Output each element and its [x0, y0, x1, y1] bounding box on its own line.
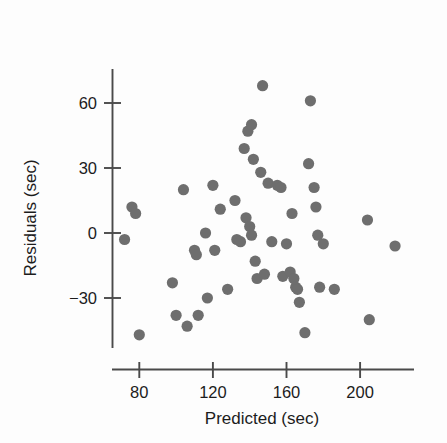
data-point [191, 249, 202, 260]
x-tick-label-200: 200 [346, 383, 374, 401]
data-point [294, 297, 305, 308]
data-point [259, 269, 270, 280]
data-point [239, 143, 250, 154]
x-axis-tick-labels: 80120160200 [130, 383, 374, 401]
data-point [200, 227, 211, 238]
y-axis-title: Residuals (sec) [21, 159, 40, 276]
data-point [255, 167, 266, 178]
data-point [207, 180, 218, 191]
x-tick-label-160: 160 [273, 383, 301, 401]
data-point [250, 256, 261, 267]
data-point [119, 234, 130, 245]
data-point [171, 310, 182, 321]
data-point [292, 284, 303, 295]
x-axis-title: Predicted (sec) [205, 409, 319, 428]
data-point [134, 329, 145, 340]
data-point [222, 284, 233, 295]
data-point [246, 119, 257, 130]
data-point [257, 80, 268, 91]
data-point [275, 182, 286, 193]
data-point [314, 282, 325, 293]
data-point [364, 314, 375, 325]
data-point [309, 182, 320, 193]
data-point [167, 277, 178, 288]
data-point [389, 240, 400, 251]
y-tick-label-30: 30 [79, 159, 97, 177]
data-points-group [119, 80, 401, 340]
data-point [266, 236, 277, 247]
data-point [299, 327, 310, 338]
y-tick-label--30: −30 [69, 289, 97, 307]
data-point [182, 321, 193, 332]
data-point [310, 201, 321, 212]
y-tick-label-60: 60 [79, 94, 97, 112]
data-point [329, 284, 340, 295]
data-point [193, 310, 204, 321]
y-axis-tick-labels: 60300−30 [69, 94, 97, 307]
data-point [362, 214, 373, 225]
data-point [235, 236, 246, 247]
data-point [229, 195, 240, 206]
data-point [209, 245, 220, 256]
residual-plot-figure: 60300−30 80120160200 Residuals (sec) Pre… [0, 0, 447, 443]
x-tick-label-120: 120 [199, 383, 227, 401]
scatter-plot-canvas: 60300−30 80120160200 Residuals (sec) Pre… [0, 0, 447, 443]
data-point [246, 230, 257, 241]
x-tick-label-80: 80 [130, 383, 148, 401]
data-point [215, 204, 226, 215]
data-point [305, 95, 316, 106]
data-point [178, 184, 189, 195]
data-point [130, 208, 141, 219]
data-point [286, 208, 297, 219]
data-point [281, 238, 292, 249]
data-point [318, 238, 329, 249]
y-tick-label-0: 0 [88, 224, 97, 242]
data-point [202, 292, 213, 303]
data-point [303, 158, 314, 169]
data-point [248, 154, 259, 165]
